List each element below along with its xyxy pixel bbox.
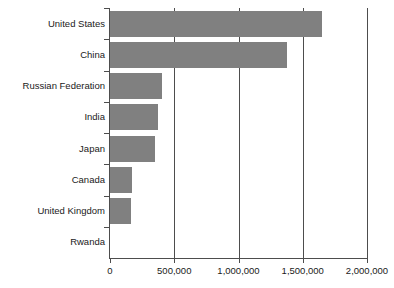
bar	[110, 42, 287, 68]
value-axis-tick-label: 2,000,000	[346, 265, 388, 276]
bar	[110, 11, 322, 37]
category-axis-label: India	[84, 111, 105, 122]
bar	[110, 136, 155, 162]
value-axis-tick-label: 500,000	[157, 265, 191, 276]
value-axis-tick-label: 1,000,000	[217, 265, 259, 276]
bar	[110, 167, 132, 193]
category-axis-label: Russian Federation	[23, 80, 105, 91]
bar	[110, 198, 131, 224]
category-axis-label: United Kingdom	[37, 205, 105, 216]
category-axis-line	[109, 8, 110, 259]
bar	[110, 73, 162, 99]
bar	[110, 104, 158, 130]
gridline	[367, 8, 368, 258]
category-axis-label: China	[80, 49, 105, 60]
category-axis-label: Canada	[72, 174, 105, 185]
category-axis-label: United States	[48, 18, 105, 29]
value-axis-tick-label: 1,500,000	[282, 265, 324, 276]
category-axis-label: Japan	[79, 143, 105, 154]
gridline	[303, 8, 304, 258]
category-axis-label: Rwanda	[70, 236, 105, 247]
value-axis-tick-label: 0	[107, 265, 112, 276]
bar-chart: United StatesChinaRussian FederationIndi…	[0, 0, 394, 288]
value-axis-line	[110, 258, 368, 259]
